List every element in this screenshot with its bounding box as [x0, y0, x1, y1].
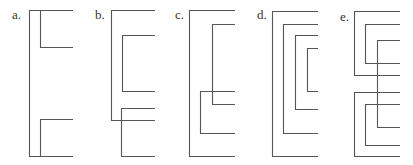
- bracket-diagram-figure: a. b. c. d. e.: [0, 0, 413, 165]
- bracket: [366, 25, 401, 64]
- bracket: [41, 11, 74, 48]
- panel-label-c: c.: [175, 8, 184, 21]
- bracket: [378, 41, 401, 128]
- panel-c-brackets: [190, 11, 236, 157]
- bracket: [366, 105, 401, 146]
- bracket: [213, 25, 236, 105]
- bracket: [41, 120, 74, 157]
- panel-label-e: e.: [340, 10, 349, 23]
- panel-d-brackets: [273, 12, 319, 157]
- panel-label-a: a.: [12, 8, 21, 21]
- bracket: [112, 11, 156, 121]
- bracket: [30, 11, 74, 157]
- bracket-lines-canvas: [0, 0, 413, 165]
- bracket: [122, 109, 156, 157]
- panel-label-b: b.: [95, 8, 105, 21]
- panel-label-d: d.: [257, 8, 267, 21]
- panel-b-brackets: [112, 11, 156, 157]
- panel-e-brackets: [355, 12, 401, 157]
- bracket: [296, 36, 319, 110]
- bracket: [308, 49, 319, 92]
- bracket: [123, 36, 156, 92]
- panel-a-brackets: [30, 11, 74, 157]
- bracket: [201, 92, 236, 134]
- bracket: [284, 25, 319, 134]
